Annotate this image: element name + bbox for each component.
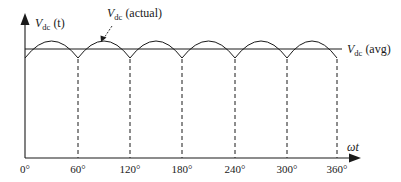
tick-180: 180° <box>172 163 193 175</box>
x-tick-labels: 0° 60° 120° 180° 240° 300° 360° <box>20 163 347 175</box>
y-axis-arrow-icon <box>21 13 30 25</box>
rectifier-output-diagram: Vdc (t) Vdc (actual) Vdc (avg) ωt 0° 60°… <box>0 0 401 182</box>
actual-pointer <box>101 26 113 42</box>
vdc-actual-label: Vdc (actual) <box>107 6 162 22</box>
tick-300: 300° <box>277 163 298 175</box>
x-axis <box>25 154 361 163</box>
dashed-markers <box>78 59 337 158</box>
x-axis-arrow-icon <box>349 154 361 163</box>
vdc-avg-label: Vdc (avg) <box>347 42 391 58</box>
tick-240: 240° <box>225 163 246 175</box>
x-axis-label: ωt <box>347 140 359 154</box>
tick-120: 120° <box>120 163 141 175</box>
tick-0: 0° <box>20 163 30 175</box>
tick-360: 360° <box>327 163 348 175</box>
tick-60: 60° <box>70 163 85 175</box>
y-axis <box>21 13 30 158</box>
y-axis-label: Vdc (t) <box>35 16 65 32</box>
